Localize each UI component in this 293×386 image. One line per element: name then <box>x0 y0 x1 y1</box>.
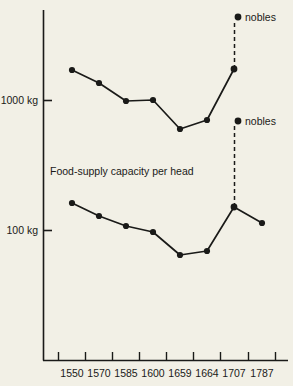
data-point <box>177 252 183 258</box>
food-supply-annotation: Food-supply capacity per head <box>50 166 194 177</box>
data-point <box>150 229 156 235</box>
y-tick-label-100: 100 kg <box>0 225 38 236</box>
data-point <box>123 223 129 229</box>
data-point <box>177 126 183 132</box>
data-point <box>204 248 210 254</box>
axis-lines <box>43 10 288 361</box>
data-point <box>259 220 265 226</box>
chart-plot-area <box>0 0 293 386</box>
x-tick-label-1787: 1787 <box>245 368 279 379</box>
data-point <box>69 67 75 73</box>
data-point <box>231 66 238 73</box>
data-point <box>204 117 210 123</box>
data-point <box>96 80 102 86</box>
food-supply-chart: 1000 kg 100 kg 1550 1570 1585 1600 1659 … <box>0 0 293 386</box>
nobles-bottom-marker <box>235 118 242 125</box>
data-point <box>231 204 238 211</box>
data-point <box>123 98 129 104</box>
data-point <box>96 213 102 219</box>
data-point <box>69 200 75 206</box>
y-tick-label-1000: 1000 kg <box>0 95 38 106</box>
lower-series-markers <box>69 200 265 258</box>
nobles-top-marker <box>235 14 242 21</box>
x-tick-marks <box>59 352 276 360</box>
upper-series-markers <box>69 66 238 133</box>
lower-series-line <box>72 203 262 255</box>
data-point <box>150 97 156 103</box>
nobles-bottom-label: nobles <box>245 116 276 127</box>
nobles-top-label: nobles <box>245 12 276 23</box>
